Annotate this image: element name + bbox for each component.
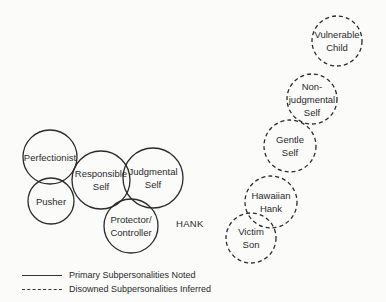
protector-controller-label: Protector/ Controller: [110, 213, 151, 239]
vulnerable-child-label: Vulnerable Child: [314, 28, 359, 54]
diagram-title-hank: HANK: [176, 218, 204, 229]
victim-son-label: Victim Son: [238, 225, 264, 251]
legend-primary-label: Primary Subpersonalities Noted: [69, 270, 196, 280]
legend-disowned-label: Disowned Subpersonalities Inferred: [69, 284, 211, 294]
legend-disowned: Disowned Subpersonalities Inferred: [22, 284, 211, 294]
legend-primary: Primary Subpersonalities Noted: [22, 270, 196, 280]
pusher-label: Pusher: [36, 195, 66, 208]
judgmental-self-label: Judgmental Self: [128, 165, 177, 191]
responsible-self-label: Responsible Self: [75, 167, 127, 193]
hawaiian-hank-label: Hawaiian Hank: [251, 189, 290, 215]
perfectionist-label: Perfectionist: [24, 151, 76, 164]
dashed-line-swatch: [22, 289, 62, 290]
gentle-self-label: Gentle Self: [276, 133, 304, 159]
solid-line-swatch: [22, 275, 62, 276]
non-judgmental-self-label: Non- judgmental Self: [289, 80, 335, 119]
